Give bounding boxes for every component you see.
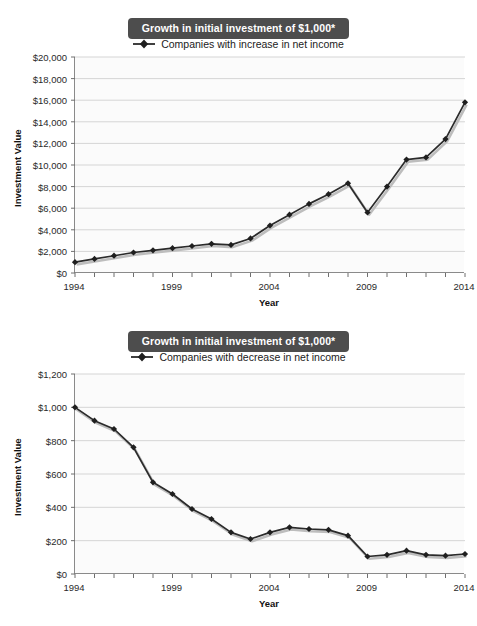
x-tick-label: 2004 [258,582,279,593]
legend-label-decrease: Companies with decrease in net income [159,351,345,363]
x-axis-title-increase: Year [74,297,464,308]
y-axis-title-decrease: Investment Value [12,438,23,516]
plot-area-decrease [74,374,464,574]
chart-title-decrease: Growth in initial investment of $1,000* [128,331,350,352]
y-tick-label: $16,000 [33,95,67,106]
chart-legend-decrease: Companies with decrease in net income [0,351,477,363]
chart-title-increase: Growth in initial investment of $1,000* [128,18,350,39]
y-tick-label: $600 [46,469,67,480]
x-tick-label: 1994 [63,281,84,292]
y-tick-label: $800 [46,435,67,446]
x-tick-label: 2004 [258,281,279,292]
y-tick-label: $4,000 [38,224,67,235]
y-tick-label: $6,000 [38,203,67,214]
y-tick-label: $18,000 [33,73,67,84]
y-tick-label: $0 [56,569,67,580]
plot-svg-increase [75,57,465,273]
plot-area-increase [74,57,464,273]
chart-title-container-increase: Growth in initial investment of $1,000* [0,18,477,39]
y-tick-label: $1,200 [38,369,67,380]
y-axis-title-increase: Investment Value [12,129,23,207]
chart-legend-increase: Companies with increase in net income [0,38,477,50]
x-axis-title-decrease: Year [74,598,464,609]
x-tick-label: 2009 [356,281,377,292]
legend-diamond-line-marker-icon [133,39,155,49]
x-tick-label: 2009 [356,582,377,593]
y-tick-label: $400 [46,502,67,513]
y-tick-label: $12,000 [33,138,67,149]
x-tick-label: 1999 [161,582,182,593]
y-tick-label: $1,000 [38,402,67,413]
y-tick-label: $20,000 [33,52,67,63]
chart-title-container-decrease: Growth in initial investment of $1,000* [0,331,477,352]
y-tick-label: $0 [56,268,67,279]
x-tick-label: 2014 [453,582,474,593]
legend-entry-decrease: Companies with decrease in net income [131,351,345,363]
chart-panel-increase: Growth in initial investment of $1,000* … [0,0,477,313]
legend-diamond-line-marker-icon [131,352,153,362]
chart-panel-decrease: Growth in initial investment of $1,000* … [0,313,477,626]
y-tick-label: $10,000 [33,160,67,171]
x-tick-label: 1999 [161,281,182,292]
legend-entry-increase: Companies with increase in net income [133,38,344,50]
y-tick-label: $8,000 [38,181,67,192]
x-tick-label: 2014 [453,281,474,292]
y-tick-label: $14,000 [33,116,67,127]
legend-label-increase: Companies with increase in net income [161,38,344,50]
y-tick-label: $2,000 [38,246,67,257]
x-tick-label: 1994 [63,582,84,593]
y-tick-label: $200 [46,535,67,546]
plot-svg-decrease [75,374,465,574]
